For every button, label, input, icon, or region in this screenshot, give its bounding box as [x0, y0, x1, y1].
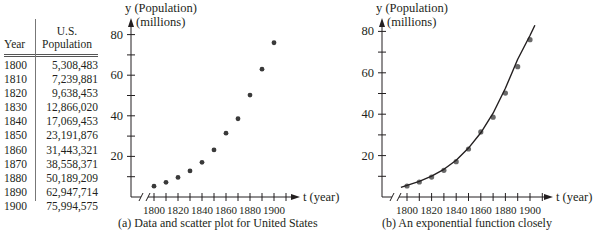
x-axis-arrow-icon: [544, 194, 553, 200]
table-row: 18005,308,483: [4, 58, 98, 72]
row-year: 1840: [4, 114, 34, 128]
data-point: [260, 67, 265, 72]
x-tick-label: 1800: [143, 204, 166, 216]
row-population: 7,239,881: [52, 72, 98, 86]
x-axis-label: t (year): [556, 190, 592, 204]
x-tick-label: 1860: [215, 204, 238, 216]
table-row: 190075,994,575: [4, 199, 98, 213]
data-point: [212, 148, 217, 153]
data-point: [272, 40, 277, 45]
x-tick-label: 1900: [263, 204, 286, 216]
header-population-line2: Population: [36, 38, 98, 51]
exponential-plot-b: t (year)y (Population)(millions)20406080…: [340, 0, 595, 216]
y-tick-label: 60: [111, 68, 124, 82]
table-row: 184017,069,453: [4, 114, 98, 128]
row-year: 1890: [4, 185, 34, 199]
x-tick-label: 1800: [396, 204, 419, 216]
x-tick-label: 1880: [239, 204, 262, 216]
table-row: 186031,443,321: [4, 143, 98, 157]
row-year: 1860: [4, 143, 34, 157]
data-point: [248, 93, 253, 98]
header-rule-top: [4, 54, 98, 55]
x-axis-arrow-icon: [291, 194, 300, 200]
table-header: Year U.S. Population: [4, 25, 98, 51]
row-population: 38,558,371: [46, 157, 98, 171]
y-axis-label-line1: y (Population): [376, 1, 448, 15]
row-year: 1870: [4, 157, 34, 171]
row-population: 17,069,453: [46, 114, 98, 128]
table-row: 187038,558,371: [4, 157, 98, 171]
y-axis-label-line2: (millions): [136, 15, 185, 29]
row-year: 1900: [4, 199, 34, 213]
y-tick-label: 40: [362, 107, 375, 121]
population-table: Year U.S. Population 18005,308,48318107,…: [4, 25, 98, 51]
x-tick-label: 1840: [191, 204, 214, 216]
row-year: 1830: [4, 100, 34, 114]
y-tick-label: 60: [362, 66, 375, 80]
y-tick-label: 40: [111, 109, 124, 123]
row-population: 5,308,483: [52, 58, 98, 72]
y-axis-arrow-icon: [379, 18, 385, 27]
table-row: 189062,947,714: [4, 185, 98, 199]
caption-b: (b) An exponential function closely: [382, 216, 552, 231]
table-row: 185023,191,876: [4, 128, 98, 142]
row-year: 1880: [4, 171, 34, 185]
table-row: 188050,189,209: [4, 171, 98, 185]
x-tick-label: 1860: [470, 204, 493, 216]
data-point: [224, 131, 229, 136]
x-tick-label: 1820: [167, 204, 190, 216]
x-tick-label: 1880: [494, 204, 517, 216]
header-population: U.S. Population: [36, 25, 98, 51]
header-population-line1: U.S.: [36, 25, 98, 38]
row-year: 1810: [4, 72, 34, 86]
row-year: 1820: [4, 86, 34, 100]
data-point: [236, 116, 241, 121]
y-tick-label: 80: [362, 24, 375, 38]
y-axis-label-line1: y (Population): [125, 1, 197, 15]
header-rule-bottom: [4, 56, 98, 57]
row-population: 12,866,020: [46, 100, 98, 114]
data-point: [152, 184, 157, 189]
row-population: 9,638,453: [52, 86, 98, 100]
row-population: 75,994,575: [46, 199, 98, 213]
data-point: [176, 175, 181, 180]
row-year: 1800: [4, 58, 34, 72]
y-tick-label: 80: [111, 28, 124, 42]
x-tick-label: 1820: [421, 204, 444, 216]
x-tick-label: 1900: [519, 204, 542, 216]
data-point: [200, 160, 205, 165]
x-axis-label: t (year): [303, 190, 339, 204]
x-tick-label: 1840: [445, 204, 468, 216]
row-population: 23,191,876: [46, 128, 98, 142]
header-year: Year: [4, 38, 34, 50]
caption-a: (a) Data and scatter plot for United Sta…: [118, 216, 318, 231]
table-row: 183012,866,020: [4, 100, 98, 114]
exponential-curve: [401, 25, 535, 187]
row-population: 50,189,209: [46, 171, 98, 185]
y-tick-label: 20: [111, 149, 124, 163]
row-population: 62,947,714: [46, 185, 98, 199]
y-tick-label: 20: [362, 149, 375, 163]
table-body: 18005,308,48318107,239,88118209,638,4531…: [4, 58, 98, 213]
row-population: 31,443,321: [46, 143, 98, 157]
table-row: 18209,638,453: [4, 86, 98, 100]
y-axis-arrow-icon: [128, 18, 134, 27]
data-point: [164, 180, 169, 185]
row-year: 1850: [4, 128, 34, 142]
y-axis-label-line2: (millions): [387, 15, 436, 29]
data-point: [188, 168, 193, 173]
table-row: 18107,239,881: [4, 72, 98, 86]
